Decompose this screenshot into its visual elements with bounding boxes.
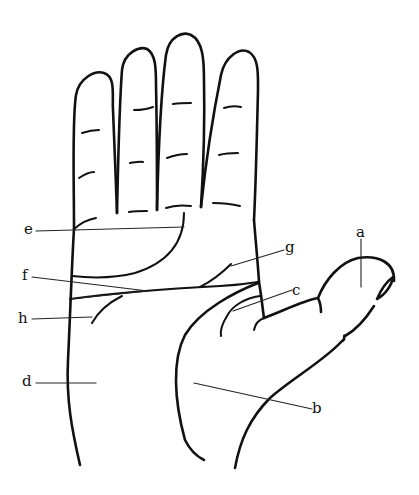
finger-crease xyxy=(219,153,238,155)
label-a: a xyxy=(356,225,365,240)
label-f: f xyxy=(22,268,28,283)
palm-ulnar-edge xyxy=(68,229,80,465)
ring-finger-outline xyxy=(117,48,157,213)
thumb-outline xyxy=(264,257,394,318)
thumbnail xyxy=(377,277,393,299)
label-e: e xyxy=(24,222,33,237)
leader-f xyxy=(32,277,148,291)
thumb-underside xyxy=(235,306,374,468)
finger-base-crease xyxy=(129,211,147,212)
label-g: g xyxy=(285,240,295,255)
finger-crease xyxy=(79,172,94,178)
thumb-web-crease xyxy=(254,318,264,330)
crease-g xyxy=(200,264,231,287)
finger-crease xyxy=(82,130,99,133)
leader-b xyxy=(194,383,312,409)
finger-crease xyxy=(134,107,153,110)
finger-crease xyxy=(130,162,143,163)
finger-crease xyxy=(173,103,191,104)
leader-e xyxy=(36,227,184,231)
palm-diagram xyxy=(0,0,419,495)
label-c: c xyxy=(292,283,300,298)
crease-h xyxy=(92,296,122,323)
label-h: h xyxy=(18,311,28,326)
leader-f2 xyxy=(70,291,148,299)
index-finger-outline xyxy=(201,51,258,220)
label-b: b xyxy=(312,401,322,416)
middle-finger-outline xyxy=(157,34,204,210)
finger-base-crease xyxy=(166,205,191,208)
finger-crease xyxy=(167,154,187,158)
little-finger-outline xyxy=(74,72,118,229)
heart-line xyxy=(74,218,96,229)
label-d: d xyxy=(22,374,32,389)
palm-region-e-curve xyxy=(72,213,184,277)
finger-crease xyxy=(224,106,241,108)
leader-h xyxy=(32,317,92,319)
finger-base-crease xyxy=(213,203,240,206)
